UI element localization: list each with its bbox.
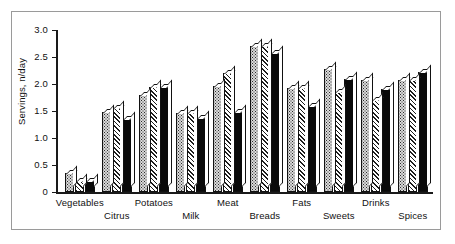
- x-axis-label-fats: Fats: [262, 198, 342, 208]
- y-tick-label: 0: [0, 187, 48, 197]
- bar-side-face: [279, 45, 283, 187]
- x-axis-label-drinks: Drinks: [336, 198, 416, 208]
- bar: [139, 95, 148, 192]
- bar-side-face: [342, 85, 346, 187]
- bar-side-face: [131, 112, 135, 187]
- bar-group: [361, 30, 396, 192]
- bar: [65, 173, 74, 192]
- bar: [398, 80, 407, 192]
- bar-group: [65, 30, 100, 192]
- y-tick-label: 3.0: [0, 25, 48, 35]
- bar-side-face: [416, 73, 420, 187]
- x-axis-label-spices: Spices: [373, 211, 453, 221]
- bar-group: [139, 30, 174, 192]
- bar: [361, 80, 370, 192]
- bar: [250, 46, 259, 192]
- x-axis-label-milk: Milk: [151, 211, 231, 221]
- bar-side-face: [242, 105, 246, 187]
- bar: [176, 113, 185, 192]
- x-axis-label-citrus: Citrus: [77, 211, 157, 221]
- bar-group: [287, 30, 322, 192]
- bar-group: [213, 30, 248, 192]
- bar-side-face: [194, 105, 198, 187]
- bar-side-face: [332, 61, 336, 187]
- bar-side-face: [295, 80, 299, 187]
- bar-series-container: [56, 30, 433, 192]
- bar-side-face: [305, 80, 309, 187]
- bar-side-face: [427, 65, 431, 187]
- bar-side-face: [147, 87, 151, 187]
- bar-side-face: [94, 174, 98, 187]
- y-tick-label: 0.5: [0, 160, 48, 170]
- bar-side-face: [406, 73, 410, 187]
- bar: [85, 181, 94, 192]
- y-tick-mark: [52, 192, 57, 193]
- bar-side-face: [379, 93, 383, 187]
- bar-group: [250, 30, 285, 192]
- bar-group: [176, 30, 211, 192]
- bar-group: [102, 30, 137, 192]
- bar: [324, 69, 333, 192]
- bar-side-face: [316, 98, 320, 187]
- bar-side-face: [369, 73, 373, 187]
- x-axis-label-breads: Breads: [225, 211, 305, 221]
- bar-side-face: [221, 78, 225, 187]
- bar: [102, 112, 111, 192]
- x-axis-label-sweets: Sweets: [299, 211, 379, 221]
- bar-side-face: [353, 71, 357, 187]
- bar-side-face: [157, 79, 161, 187]
- bar-group: [398, 30, 433, 192]
- bar-side-face: [110, 105, 114, 187]
- x-axis-line: [56, 192, 433, 194]
- bar-side-face: [120, 101, 124, 187]
- figure-canvas: 00.51.01.52.02.53.0 Servings, n/day Vege…: [0, 0, 455, 244]
- bar-side-face: [168, 79, 172, 187]
- x-axis-label-meat: Meat: [188, 198, 268, 208]
- bar-side-face: [231, 66, 235, 187]
- x-axis-label-potatoes: Potatoes: [114, 198, 194, 208]
- bar-side-face: [205, 111, 209, 187]
- bar: [213, 86, 222, 192]
- bar-side-face: [268, 39, 272, 187]
- x-axis-label-vegetables: Vegetables: [40, 198, 120, 208]
- plot-area: 00.51.01.52.02.53.0 Servings, n/day Vege…: [0, 0, 455, 244]
- bar-group: [324, 30, 359, 192]
- bar-side-face: [390, 82, 394, 187]
- bar: [287, 88, 296, 192]
- bar-side-face: [184, 105, 188, 187]
- bar-side-face: [258, 39, 262, 187]
- y-axis-title: Servings, n/day: [16, 37, 27, 147]
